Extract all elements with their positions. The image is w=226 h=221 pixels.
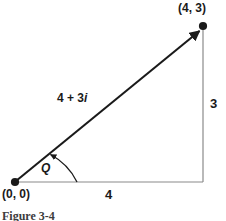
- horizontal-side-label: 4: [105, 188, 112, 201]
- argand-diagram: [0, 0, 226, 221]
- vector-label-real-part: 4 + 3: [57, 91, 84, 105]
- vector-arrow-line: [16, 31, 200, 181]
- figure-container: (4, 3) (0, 0) 4 + 3i 3 4 Q Figure 3-4: [0, 0, 226, 221]
- vector-label: 4 + 3i: [57, 92, 87, 104]
- angle-arc: [51, 155, 78, 183]
- point-label-origin: (0, 0): [2, 188, 30, 200]
- vector-label-imaginary-unit: i: [84, 91, 87, 105]
- terminal-point-dot: [199, 22, 207, 30]
- vertical-side-label: 3: [210, 97, 217, 110]
- origin-point-dot: [11, 178, 19, 186]
- figure-caption: Figure 3-4: [2, 209, 55, 221]
- angle-label: Q: [41, 162, 50, 174]
- point-label-4-3: (4, 3): [178, 2, 206, 14]
